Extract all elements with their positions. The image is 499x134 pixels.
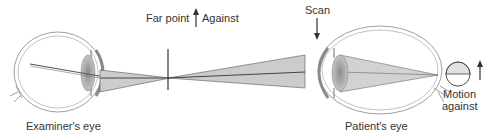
against-label: Against <box>202 12 239 24</box>
motion-label-line1: Motion <box>443 88 476 100</box>
scan-arrow-icon <box>314 18 320 40</box>
light-beam-patient <box>168 55 305 88</box>
patient-eye-label: Patient's eye <box>345 120 408 132</box>
examiner-eye <box>10 32 105 112</box>
against-arrow-icon <box>193 8 199 27</box>
scan-label: Scan <box>305 4 330 16</box>
patient-eye <box>318 26 450 114</box>
retinoscopy-diagram <box>0 0 499 134</box>
motion-label-line2: against <box>442 100 477 112</box>
motion-arrow-icon <box>477 60 483 80</box>
far-point-label: Far point <box>146 12 189 24</box>
reflex-circle-icon <box>446 62 470 86</box>
examiner-eye-label: Examiner's eye <box>26 120 101 132</box>
light-beam-examiner <box>100 70 170 92</box>
